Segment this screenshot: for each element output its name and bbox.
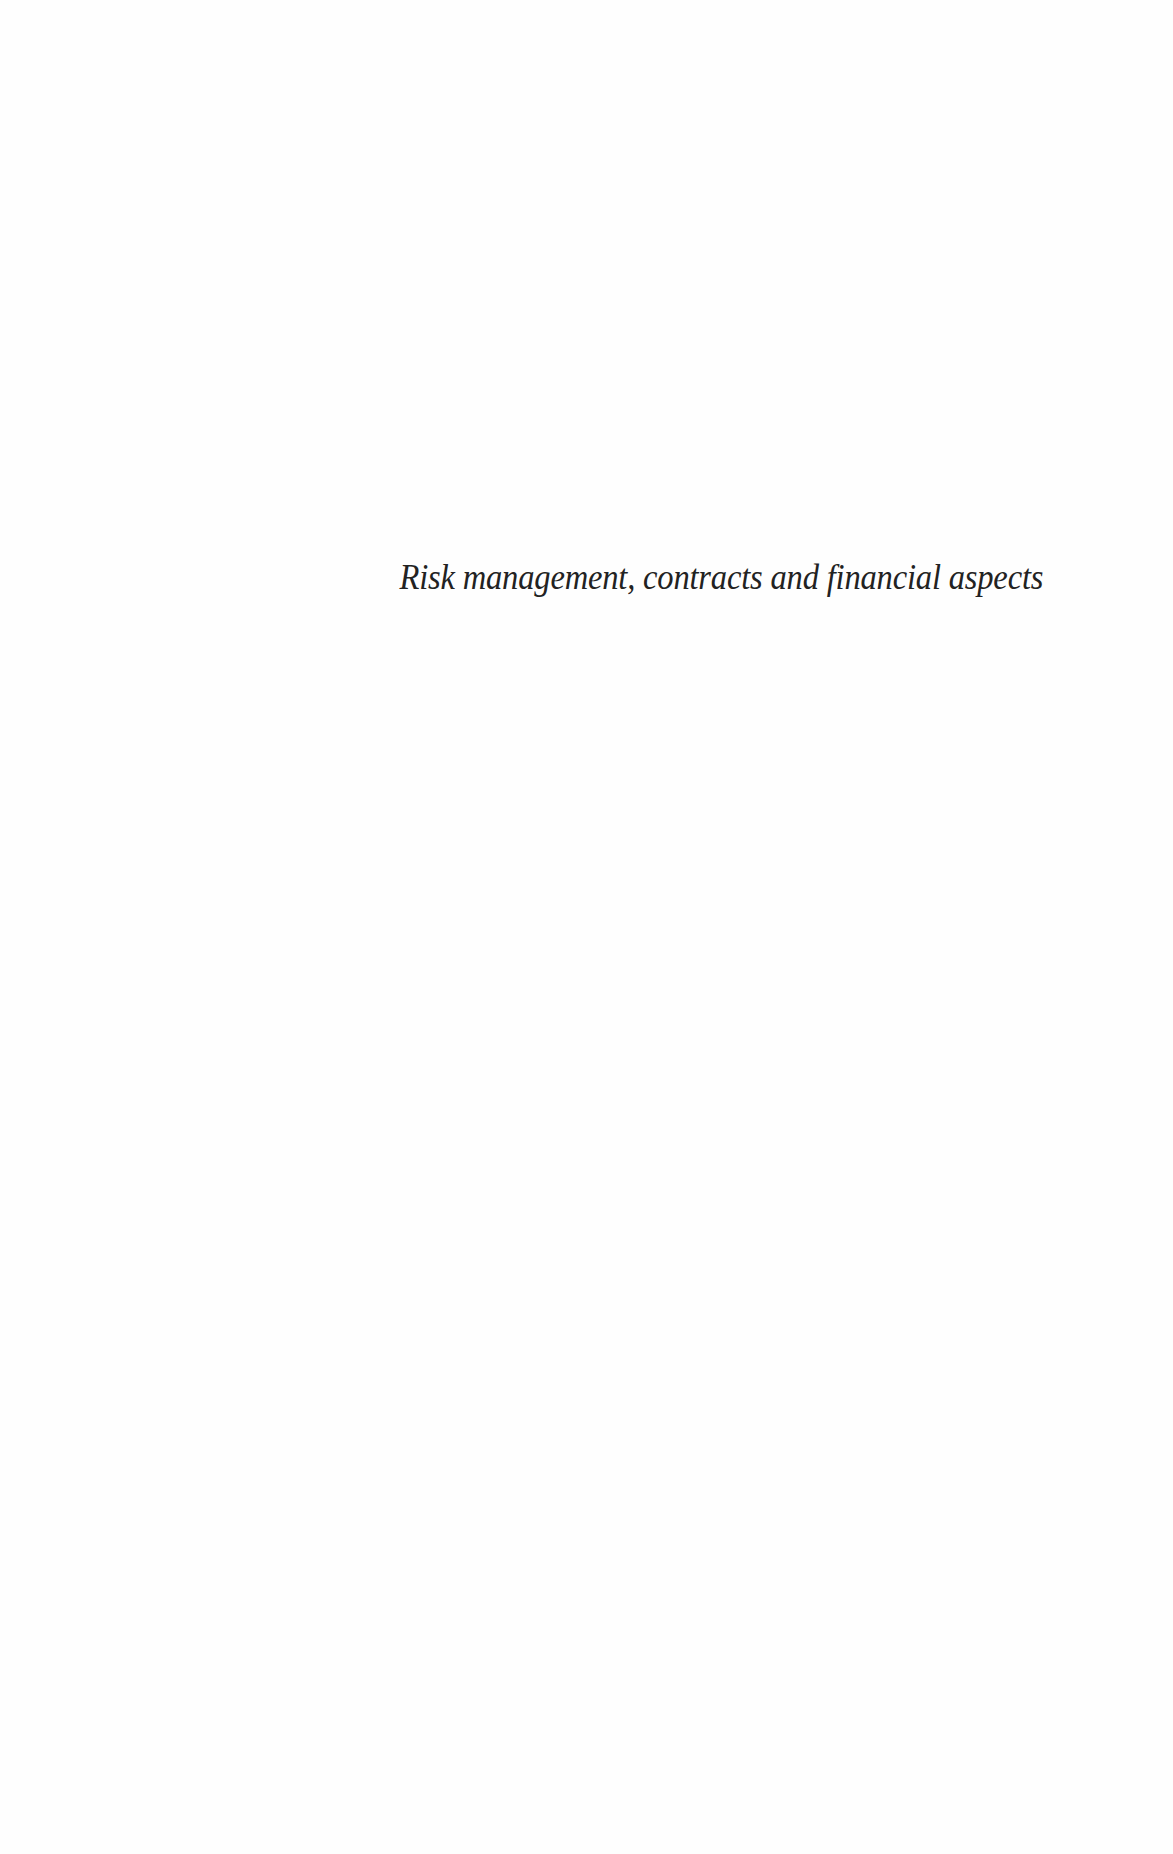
half-title: Risk management, contracts and financial… xyxy=(399,556,1043,600)
book-page: Risk management, contracts and financial… xyxy=(0,0,1173,1854)
